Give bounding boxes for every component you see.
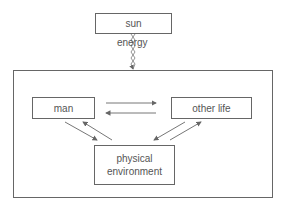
edge-label-energy: energy (117, 37, 148, 48)
node-other-life-label: other life (192, 102, 230, 115)
node-man: man (32, 97, 95, 119)
node-sun-label: sun (125, 17, 141, 30)
node-physical-environment: physical environment (94, 145, 175, 185)
node-man-label: man (54, 102, 73, 115)
node-other-life: other life (171, 97, 252, 119)
node-sun: sun (95, 13, 172, 34)
node-physical-environment-label: physical environment (99, 152, 170, 178)
